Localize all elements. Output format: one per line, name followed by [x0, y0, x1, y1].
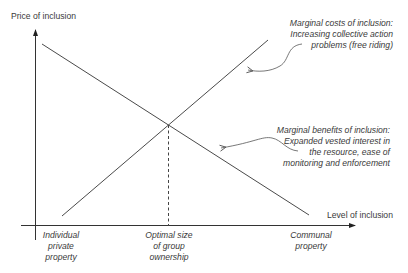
annotation-line: monitoring and enforcement [277, 158, 390, 169]
y-axis-label: Price of inclusion [11, 11, 76, 22]
annotation-line: Marginal benefits of inclusion: [277, 125, 390, 136]
tick-line: Optimal size [138, 230, 200, 241]
annotation-line: Increasing collective action [290, 29, 393, 40]
tick-line: private [36, 241, 86, 252]
marginal-benefits-curve [42, 44, 309, 215]
costs-annotation: Marginal costs of inclusion: Increasing … [290, 18, 393, 51]
tick-line: ownership [138, 252, 200, 263]
tick-line: of group [138, 241, 200, 252]
annotation-line: problems (free riding) [290, 40, 393, 51]
annotation-line: Expanded vested interest in [277, 136, 390, 147]
marginal-costs-curve [62, 40, 268, 216]
tick-line: Communal [285, 230, 337, 241]
tick-individual-private-property: Individual private property [36, 230, 86, 263]
x-axis-label: Level of inclusion [327, 210, 393, 221]
benefits-annotation: Marginal benefits of inclusion: Expanded… [277, 125, 390, 169]
tick-communal-property: Communal property [285, 230, 337, 252]
tick-line: property [36, 252, 86, 263]
tick-line: property [285, 241, 337, 252]
tick-line: Individual [36, 230, 86, 241]
annotation-line: Marginal costs of inclusion: [290, 18, 393, 29]
tick-optimal-size: Optimal size of group ownership [138, 230, 200, 263]
annotation-line: the resource, ease of [277, 147, 390, 158]
